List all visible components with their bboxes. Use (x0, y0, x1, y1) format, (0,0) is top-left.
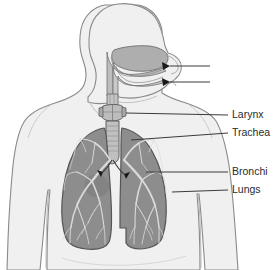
label-lungs: Lungs (232, 183, 261, 195)
diagram-canvas: Larynx Trachea Bronchi Lungs (0, 0, 275, 270)
larynx-left-wing (99, 107, 103, 117)
larynx-structure (99, 105, 126, 122)
label-trachea: Trachea (232, 126, 270, 138)
respiratory-system-diagram: Larynx Trachea Bronchi Lungs (0, 0, 275, 270)
nasal-cavity (112, 46, 168, 72)
label-bronchi: Bronchi (232, 165, 268, 177)
label-larynx: Larynx (232, 108, 264, 120)
larynx-right-wing (122, 107, 126, 117)
labels-group: Larynx Trachea Bronchi Lungs (232, 108, 270, 195)
